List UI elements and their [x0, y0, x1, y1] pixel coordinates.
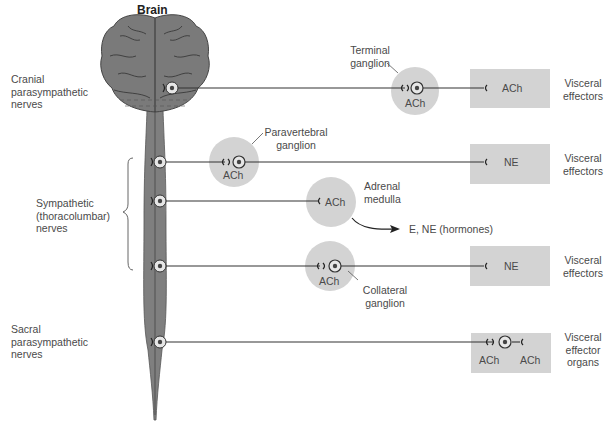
- label-line: ganglion: [355, 297, 415, 310]
- sacral-label-line: Sacral: [11, 323, 88, 336]
- label-line: ganglion: [340, 57, 400, 70]
- label-line: Terminal: [340, 44, 400, 57]
- hormone-arrow: [352, 218, 395, 229]
- effector-5-nt-left: ACh: [479, 354, 499, 366]
- label-line: effectors: [555, 267, 611, 280]
- cranial-label-line: parasympathetic: [11, 86, 88, 99]
- adrenal-medulla-nt: ACh: [325, 196, 345, 208]
- adrenal-medulla-label: Adrenal medulla: [364, 180, 401, 205]
- sympathetic-label-line: Sympathetic: [36, 197, 110, 210]
- effector-box-5: [471, 333, 551, 373]
- sympathetic-label-line: (thoracolumbar): [36, 210, 110, 223]
- effector-5-label: Visceral effector organs: [555, 331, 611, 369]
- collateral-ganglion-nt: ACh: [319, 275, 339, 287]
- effector-1-nt: ACh: [502, 82, 522, 94]
- sacral-division-label: Sacral parasympathetic nerves: [11, 323, 88, 361]
- effector-4-label: Visceral effectors: [555, 254, 611, 279]
- adrenal-hormone-output: E, NE (hormones): [409, 223, 493, 235]
- label-line: medulla: [364, 193, 401, 206]
- brain-label: Brain: [137, 4, 168, 17]
- effector-1-label: Visceral effectors: [555, 77, 611, 102]
- label-line: effector: [555, 344, 611, 357]
- label-line: effectors: [555, 165, 611, 178]
- effector-2-nt: NE: [504, 156, 519, 168]
- effector-4-nt: NE: [504, 260, 519, 272]
- label-line: Collateral: [355, 284, 415, 297]
- sacral-label-line: parasympathetic: [11, 336, 88, 349]
- label-line: Visceral: [555, 77, 611, 90]
- sympathetic-label-line: nerves: [36, 222, 110, 235]
- terminal-ganglion-nt: ACh: [405, 97, 425, 109]
- label-line: Visceral: [555, 152, 611, 165]
- label-line: Visceral: [555, 331, 611, 344]
- label-line: ganglion: [256, 139, 336, 152]
- paravertebral-ganglion-label: Paravertebral ganglion: [256, 126, 336, 151]
- cranial-label-line: Cranial: [11, 73, 88, 86]
- label-line: Paravertebral: [256, 126, 336, 139]
- paravertebral-ganglion-nt: ACh: [223, 169, 243, 181]
- brain-icon: [101, 15, 210, 112]
- cranial-label-line: nerves: [11, 98, 88, 111]
- collateral-ganglion-label: Collateral ganglion: [355, 284, 415, 309]
- sympathetic-division-label: Sympathetic (thoracolumbar) nerves: [36, 197, 110, 235]
- label-line: organs: [555, 356, 611, 369]
- label-line: effectors: [555, 90, 611, 103]
- effector-5-nt-right: ACh: [520, 354, 540, 366]
- terminal-ganglion-label: Terminal ganglion: [340, 44, 400, 69]
- effector-2-label: Visceral effectors: [555, 152, 611, 177]
- label-line: Adrenal: [364, 180, 401, 193]
- cranial-division-label: Cranial parasympathetic nerves: [11, 73, 88, 111]
- sympathetic-brace: [123, 158, 133, 270]
- sacral-label-line: nerves: [11, 348, 88, 361]
- label-line: Visceral: [555, 254, 611, 267]
